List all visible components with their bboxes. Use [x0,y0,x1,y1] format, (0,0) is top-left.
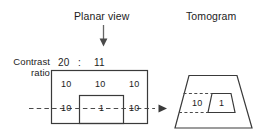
planar-bottom-cell-1: 10 [61,104,71,113]
planar-bottom-cell-3: 10 [129,104,139,113]
figure-canvas: Planar view Tomogram Contrast ratio 20 :… [0,0,262,140]
contrast-ratio-left-value: 20 [58,58,70,68]
tomogram-background-value: 10 [192,99,202,108]
contrast-ratio-separator: : [78,58,81,68]
planar-top-cell-2: 10 [95,80,105,89]
planar-top-cell-1: 10 [61,80,71,89]
contrast-ratio-label-line1: Contrast [2,57,50,67]
planar-top-cell-3: 10 [129,80,139,89]
planar-view-heading: Planar view [74,11,129,22]
tomogram-lesion-value: 1 [219,99,224,108]
contrast-ratio-label-line2: ratio [2,68,50,78]
planar-view-arrow [100,25,108,47]
contrast-ratio-right-value: 11 [94,58,105,68]
planar-bottom-cell-2: 1 [99,104,104,113]
tomogram-heading: Tomogram [186,11,236,22]
tomogram-outer-trapezoid [175,76,252,129]
scan-direction-arrow [159,104,168,112]
